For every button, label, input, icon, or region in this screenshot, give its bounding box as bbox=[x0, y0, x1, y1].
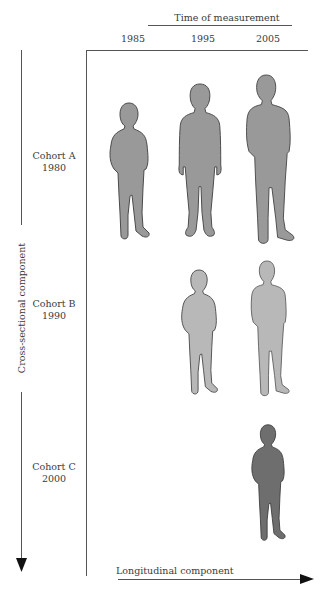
year-2005: 2005 bbox=[248, 33, 288, 44]
top-axis-line bbox=[86, 50, 308, 51]
longitudinal-label: Longitudinal component bbox=[116, 565, 234, 576]
cohort-c-name: Cohort C bbox=[14, 461, 94, 473]
cohort-a-1995-figure bbox=[177, 84, 223, 238]
cohort-b-1995-figure bbox=[179, 270, 219, 395]
cohort-c-year: 2000 bbox=[14, 473, 94, 485]
cohort-b-year: 1990 bbox=[14, 310, 94, 322]
horizontal-axis-line bbox=[118, 579, 308, 580]
year-1985: 1985 bbox=[113, 33, 153, 44]
down-arrow-icon bbox=[16, 558, 27, 572]
cohort-b-name: Cohort B bbox=[14, 298, 94, 310]
year-1995: 1995 bbox=[183, 33, 223, 44]
cohort-a-1985-figure bbox=[109, 103, 149, 240]
vertical-axis-upper bbox=[21, 50, 22, 225]
cohort-a-name: Cohort A bbox=[14, 150, 94, 162]
right-arrow-icon bbox=[300, 574, 314, 584]
cohort-a-year: 1980 bbox=[14, 162, 94, 174]
cohort-b-2005-figure bbox=[245, 261, 295, 397]
cohort-c-2005-figure bbox=[251, 421, 285, 545]
time-of-measurement-title: Time of measurement bbox=[172, 12, 282, 23]
cohort-c-label: Cohort C 2000 bbox=[14, 461, 94, 485]
cohort-b-label: Cohort B 1990 bbox=[14, 298, 94, 322]
cohort-a-label: Cohort A 1980 bbox=[14, 150, 94, 174]
title-underline bbox=[148, 25, 292, 26]
cohort-a-2005-figure bbox=[244, 75, 296, 245]
